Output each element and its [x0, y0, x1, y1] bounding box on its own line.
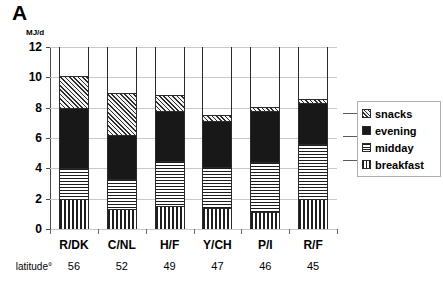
bar-segment-snacks [60, 76, 88, 108]
bar-c-nl [107, 47, 137, 229]
legend-item-evening: evening [362, 122, 440, 139]
x-axis-tick [98, 229, 99, 234]
y-axis-unit-label: MJ/d [26, 28, 44, 37]
x-axis-tick [194, 229, 195, 234]
x-axis-tick [337, 229, 338, 234]
bar-segment-snacks [156, 95, 184, 111]
y-axis-label-2: 2 [16, 193, 42, 205]
y-axis-label-0: 0 [16, 223, 42, 235]
y-tick-12 [46, 47, 50, 48]
legend-item-breakfast: breakfast [362, 156, 440, 173]
bar-segment-evening [156, 111, 184, 161]
bar-segment-breakfast [156, 206, 184, 229]
bar-segment-breakfast [203, 208, 231, 229]
legend-label-evening: evening [375, 125, 417, 137]
legend-box: snacks evening midday breakfast [357, 101, 441, 177]
bar-segment-midday [299, 144, 327, 199]
legend-leader-line [343, 113, 357, 114]
y-axis-label-4: 4 [16, 162, 42, 174]
x-axis-tick [289, 229, 290, 234]
bar-segment-breakfast [108, 209, 136, 229]
bar-h-f [155, 47, 185, 229]
legend-item-midday: midday [362, 139, 440, 156]
x-axis-category-label-r-f: R/F [278, 238, 348, 252]
y-axis-label-6: 6 [16, 132, 42, 144]
gridline-8 [50, 108, 337, 109]
breakfast-swatch-icon [362, 160, 371, 169]
bar-segment-midday [60, 168, 88, 198]
gridline-12 [50, 47, 337, 48]
legend-leader-line [343, 136, 357, 137]
x-axis-tick [50, 229, 51, 234]
bar-segment-evening [108, 135, 136, 179]
bar-segment-snacks [203, 115, 231, 122]
y-tick-6 [46, 138, 50, 139]
y-tick-8 [46, 108, 50, 109]
gridline-6 [50, 138, 337, 139]
snacks-swatch-icon [362, 109, 371, 118]
midday-swatch-icon [362, 143, 371, 152]
gridline-4 [50, 168, 337, 169]
bar-segment-midday [108, 179, 136, 209]
bar-segment-evening [251, 111, 279, 163]
evening-swatch-icon [362, 126, 371, 135]
y-tick-10 [46, 77, 50, 78]
x-axis-tick [146, 229, 147, 234]
y-tick-4 [46, 168, 50, 169]
y-tick-2 [46, 199, 50, 200]
bar-segment-midday [203, 167, 231, 208]
bar-r-dk [59, 47, 89, 229]
bar-p-i [250, 47, 280, 229]
bar-segment-breakfast [299, 199, 327, 229]
panel-letter: A [12, 2, 27, 23]
bar-segment-snacks [251, 107, 279, 111]
y-axis-label-10: 10 [16, 71, 42, 83]
bar-y-ch [202, 47, 232, 229]
bar-segment-breakfast [60, 199, 88, 229]
bar-segment-evening [60, 108, 88, 169]
bar-segment-midday [251, 162, 279, 212]
figure-panel-a: A MJ/d snacks evening midday breakfast l… [0, 0, 443, 287]
bar-r-f [298, 47, 328, 229]
bar-segment-evening [203, 121, 231, 167]
bar-segment-midday [156, 161, 184, 207]
y-axis-label-8: 8 [16, 102, 42, 114]
y-axis-label-12: 12 [16, 41, 42, 53]
bar-segment-breakfast [251, 212, 279, 229]
bar-segment-snacks [299, 99, 327, 104]
bar-segment-snacks [108, 93, 136, 135]
x-axis-tick [241, 229, 242, 234]
legend-label-breakfast: breakfast [375, 159, 424, 171]
legend-label-midday: midday [375, 142, 414, 154]
plot-area [50, 47, 337, 229]
gridline-10 [50, 77, 337, 78]
legend-leader-line [343, 160, 357, 161]
legend-item-snacks: snacks [362, 105, 440, 122]
gridline-2 [50, 199, 337, 200]
latitude-value-r-f: 45 [278, 260, 348, 273]
bar-segment-evening [299, 103, 327, 144]
legend-label-snacks: snacks [375, 108, 412, 120]
